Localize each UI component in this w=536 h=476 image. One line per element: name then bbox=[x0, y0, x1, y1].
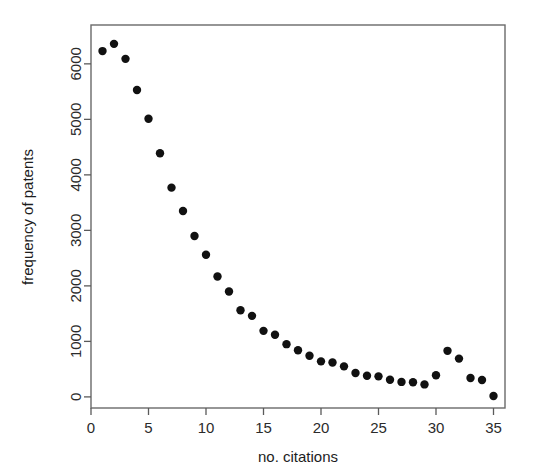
data-point bbox=[236, 306, 244, 314]
data-point bbox=[202, 251, 210, 259]
scatter-plot-canvas: 05101520253035 0100020003000400050006000… bbox=[0, 0, 536, 476]
x-tick-label: 5 bbox=[144, 419, 152, 436]
data-point bbox=[409, 378, 417, 386]
data-point bbox=[110, 40, 118, 48]
data-point bbox=[328, 358, 336, 366]
data-point bbox=[397, 378, 405, 386]
x-tick-label: 30 bbox=[428, 419, 445, 436]
data-point bbox=[133, 86, 141, 94]
y-tick-label: 0 bbox=[67, 393, 84, 401]
x-tick-label: 10 bbox=[198, 419, 215, 436]
y-tick-label: 6000 bbox=[67, 47, 84, 80]
x-tick-label: 35 bbox=[485, 419, 502, 436]
data-point bbox=[282, 340, 290, 348]
data-point bbox=[190, 232, 198, 240]
data-point bbox=[443, 347, 451, 355]
x-tick-label: 0 bbox=[87, 419, 95, 436]
data-point bbox=[489, 392, 497, 400]
data-point bbox=[363, 372, 371, 380]
data-point bbox=[466, 374, 474, 382]
y-tick-label: 1000 bbox=[67, 325, 84, 358]
data-point bbox=[259, 327, 267, 335]
y-tick-label: 5000 bbox=[67, 103, 84, 136]
data-point bbox=[374, 372, 382, 380]
data-point bbox=[455, 354, 463, 362]
data-point bbox=[121, 55, 129, 63]
data-point bbox=[225, 287, 233, 295]
y-tick-label: 4000 bbox=[67, 158, 84, 191]
data-point bbox=[305, 352, 313, 360]
data-point bbox=[420, 380, 428, 388]
x-tick-label: 20 bbox=[313, 419, 330, 436]
data-point bbox=[248, 312, 256, 320]
x-tick-label: 15 bbox=[255, 419, 272, 436]
x-axis-title: no. citations bbox=[258, 448, 338, 465]
data-point bbox=[478, 376, 486, 384]
data-point bbox=[432, 371, 440, 379]
data-point bbox=[213, 272, 221, 280]
x-tick-label: 25 bbox=[370, 419, 387, 436]
data-point bbox=[317, 357, 325, 365]
y-tick-label: 2000 bbox=[67, 269, 84, 302]
data-point bbox=[144, 115, 152, 123]
data-point bbox=[351, 369, 359, 377]
data-point bbox=[294, 346, 302, 354]
y-tick-label: 3000 bbox=[67, 214, 84, 247]
data-point bbox=[271, 331, 279, 339]
data-point bbox=[156, 149, 164, 157]
y-axis-title: frequency of patents bbox=[19, 149, 36, 285]
data-point bbox=[179, 207, 187, 215]
data-point bbox=[167, 183, 175, 191]
data-point bbox=[386, 375, 394, 383]
data-point bbox=[340, 362, 348, 370]
data-point bbox=[98, 47, 106, 55]
citation-frequency-scatter-figure: 05101520253035 0100020003000400050006000… bbox=[0, 0, 536, 476]
